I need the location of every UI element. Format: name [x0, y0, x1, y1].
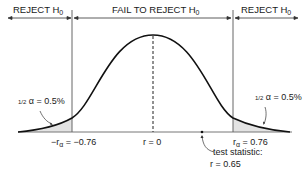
center-value-label: r = 0 — [143, 138, 161, 147]
left-critical-value-label: −rα = −0.76 — [51, 138, 96, 147]
right-tail-label: 1/2 α = 0.5% — [255, 93, 302, 102]
region-arrows — [8, 17, 298, 20]
right-tail-shade — [233, 118, 290, 132]
right-critical-value-label: rα = 0.76 — [233, 138, 268, 147]
test-statistic-label: test statistic: — [213, 148, 263, 157]
right-tail-pointer — [264, 107, 266, 124]
test-statistic-point — [201, 131, 204, 134]
bell-curve — [18, 35, 290, 132]
region-label-reject-left: REJECT H0 — [13, 5, 63, 15]
left-tail-shade — [18, 118, 72, 132]
left-tail-label: 1/2 α = 0.5% — [18, 97, 65, 106]
left-tail-pointer — [40, 111, 52, 124]
region-label-reject-right: REJECT H0 — [241, 5, 291, 15]
region-label-fail-to-reject: FAIL TO REJECT H0 — [112, 5, 200, 15]
test-statistic-value: r = 0.65 — [210, 160, 241, 169]
